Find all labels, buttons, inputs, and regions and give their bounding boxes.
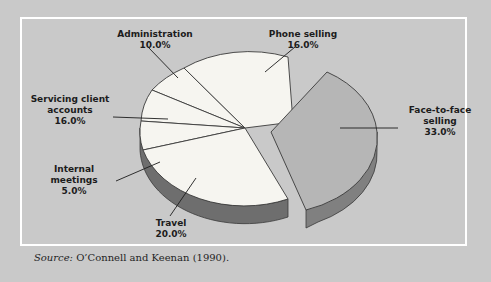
label-servicing-client-accounts: Servicing client accounts 16.0% [28,94,112,127]
figure-root: Administration 10.0% Phone selling 16.0%… [0,0,491,282]
label-face-value: 33.0% [400,127,480,138]
label-face-line2: selling [400,116,480,127]
source-citation: Source: O’Connell and Keenan (1990). [34,252,229,263]
label-internal-line2: meetings [36,175,112,186]
label-servicing-line1: Servicing client [31,94,110,104]
leader-line-administration [148,47,178,78]
pie-main-body [140,52,293,224]
source-label: Source: [34,252,73,263]
label-face-to-face-selling: Face-to-face selling 33.0% [400,105,480,138]
source-text: O’Connell and Keenan (1990). [73,252,229,263]
label-servicing-line2: accounts [28,105,112,116]
label-administration-name: Administration [117,29,193,39]
label-administration-value: 10.0% [92,40,218,51]
label-internal-meetings: Internal meetings 5.0% [36,164,112,197]
label-travel-name: Travel [156,218,187,228]
label-phone-selling-value: 16.0% [248,40,358,51]
label-phone-selling: Phone selling 16.0% [248,29,358,51]
label-travel-value: 20.0% [137,229,205,240]
label-internal-value: 5.0% [36,186,112,197]
label-face-line1: Face-to-face [409,105,472,115]
label-phone-selling-name: Phone selling [269,29,337,39]
label-travel: Travel 20.0% [137,218,205,240]
label-internal-line1: Internal [54,164,94,174]
label-servicing-value: 16.0% [28,116,112,127]
label-administration: Administration 10.0% [92,29,218,51]
